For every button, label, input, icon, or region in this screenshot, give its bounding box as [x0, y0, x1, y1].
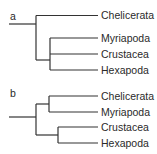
panel-label-a: a [10, 10, 16, 22]
tree-a-taxon-crustacea: Crustacea [101, 48, 149, 60]
tree-a-taxon-hexapoda: Hexapoda [101, 64, 149, 76]
tree-a-taxon-chelicerata: Chelicerata [101, 9, 154, 21]
panel-label-b: b [10, 87, 16, 99]
tree-b-taxon-myriapoda: Myriapoda [101, 106, 150, 118]
tree-a-branches [9, 16, 98, 71]
tree-b-branches [9, 96, 98, 143]
tree-b-taxon-chelicerata: Chelicerata [101, 90, 154, 102]
tree-a-taxon-myriapoda: Myriapoda [101, 32, 150, 44]
tree-b-taxon-crustacea: Crustacea [101, 121, 149, 133]
tree-b-taxon-hexapoda: Hexapoda [101, 137, 149, 149]
